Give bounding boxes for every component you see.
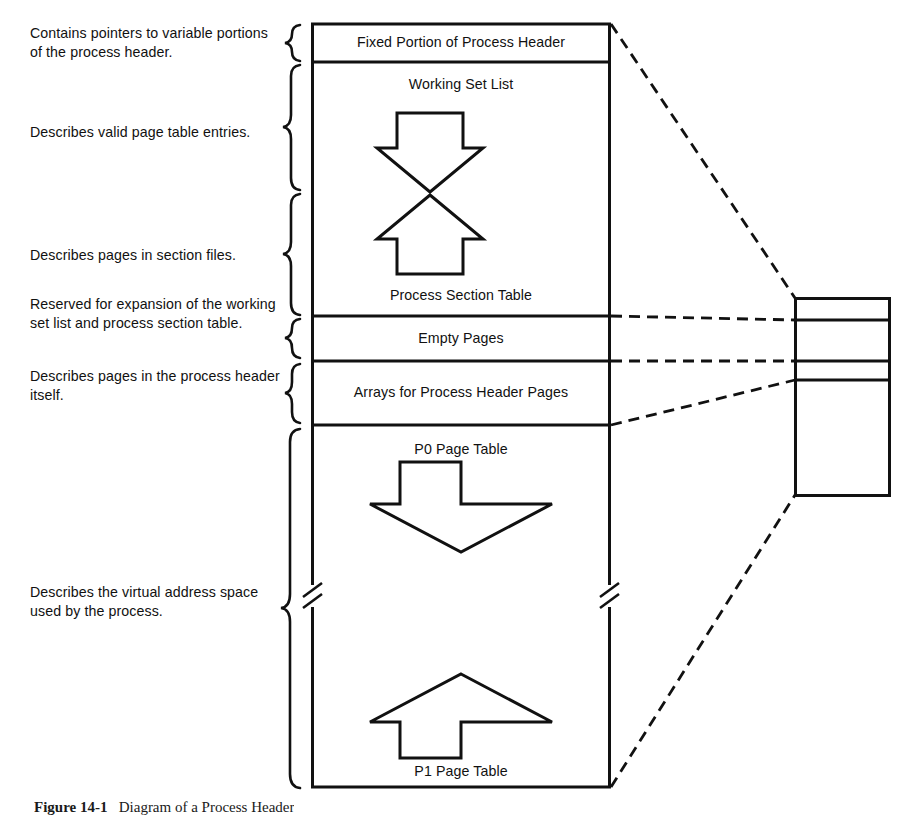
arrow-p1-page-table-up: [370, 674, 552, 758]
leader-bottom-diagonal: [611, 495, 795, 787]
annotation-valid-pte: Describes valid page table entries.: [30, 123, 292, 142]
callout-leader-lines: [611, 24, 795, 787]
brace-reserved-expansion: [285, 319, 300, 358]
arrow-process-section-table-up: [377, 195, 483, 274]
leader-arrays-bottom: [611, 380, 795, 425]
detail-panel-outline: [796, 299, 890, 496]
leader-top-diagonal: [611, 24, 795, 298]
brace-virtual-address-space: [281, 429, 300, 788]
figure-caption-number: Figure 14-1: [34, 799, 107, 815]
section-label-arrays-for-process-header-pages: Arrays for Process Header Pages: [311, 383, 611, 401]
section-label-empty-pages: Empty Pages: [311, 329, 611, 347]
arrow-working-set-list-down: [377, 113, 483, 192]
arrow-p0-page-table-down: [370, 462, 552, 552]
break-mark-left: [303, 583, 322, 608]
section-label-process-section-table: Process Section Table: [311, 286, 611, 304]
annotation-section-files: Describes pages in section files.: [30, 246, 292, 265]
annotation-process-header-pages: Describes pages in the process header it…: [30, 367, 288, 405]
annotation-virtual-address-space: Describes the virtual address space used…: [30, 583, 282, 621]
figure-caption: Figure 14-1 Diagram of a Process Header: [34, 798, 294, 817]
section-label-working-set-list: Working Set List: [311, 75, 611, 93]
break-mark-right: [600, 583, 619, 608]
section-label-p1-page-table: P1 Page Table: [311, 762, 611, 780]
annotation-fixed-portion: Contains pointers to variable portions o…: [30, 24, 282, 62]
annotation-reserved-expansion: Reserved for expansion of the working se…: [30, 295, 286, 333]
figure-canvas: Contains pointers to variable portions o…: [0, 0, 911, 817]
figure-caption-text: Diagram of a Process Header: [119, 799, 295, 815]
leader-empty-pages-top: [611, 316, 795, 320]
section-label-fixed-portion-of-process-header: Fixed Portion of Process Header: [311, 33, 611, 51]
brace-fixed-portion: [285, 25, 300, 61]
section-label-p0-page-table: P0 Page Table: [311, 440, 611, 458]
